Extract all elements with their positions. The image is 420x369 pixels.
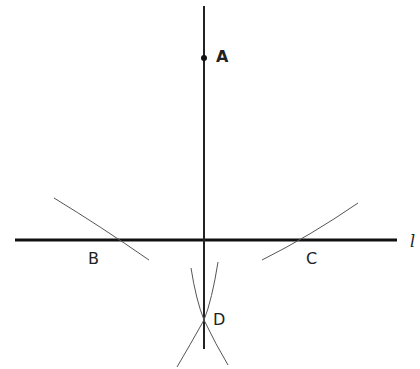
label-line-l: l [410,232,415,251]
label-c: C [306,249,317,268]
label-d: D [213,310,225,329]
label-a: A [216,47,229,66]
arc-d-from-b [177,262,218,367]
point-a-dot [201,55,207,61]
label-b: B [88,249,99,268]
geometry-diagram: A B C D l [0,0,420,369]
arc-b [54,198,149,260]
